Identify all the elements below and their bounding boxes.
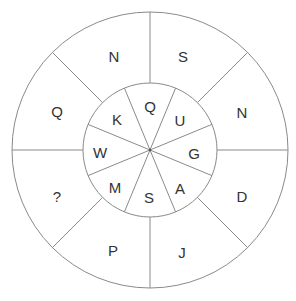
inner-letter: A [175,180,185,197]
letter-wheel-puzzle: N S N D J P ? Q Q U G A S M W K [0,0,296,301]
inner-letter: S [144,189,154,206]
inner-letter: K [112,111,122,128]
inner-letter: G [188,145,200,162]
outer-letter: J [178,244,186,261]
inner-letter: M [109,179,122,196]
missing-letter: ? [53,188,61,205]
outer-letter: N [237,104,248,121]
outer-letter: P [108,242,118,259]
inner-letter: W [93,144,108,161]
outer-letter: Q [51,103,63,120]
inner-letter: Q [144,98,156,115]
outer-letter: D [237,188,248,205]
inner-letter: U [175,112,186,129]
center-dot [149,149,151,151]
outer-letter: S [178,48,188,65]
outer-letter: N [109,48,120,65]
